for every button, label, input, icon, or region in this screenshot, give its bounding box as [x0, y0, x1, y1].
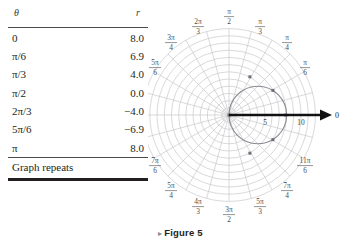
table-row: π/3 4.0 [8, 65, 148, 83]
svg-text:2π: 2π [194, 17, 202, 26]
svg-text:π: π [227, 7, 231, 16]
polar-axis-label-0: 0 [335, 111, 339, 120]
table-bottom-rule [8, 178, 148, 180]
svg-text:4π: 4π [194, 197, 202, 206]
svg-text:3: 3 [196, 27, 200, 36]
svg-text:4: 4 [169, 43, 173, 52]
caption-triangle-icon: ▸ [158, 229, 162, 238]
column-header-r: r [78, 6, 148, 21]
polar-figure: 5 10 0 π 2 2π 3 3π 4 [148, 2, 341, 241]
angle-label-7pi-over-6: 7π 6 [149, 156, 161, 175]
svg-text:2: 2 [227, 17, 231, 26]
svg-text:5π: 5π [151, 58, 159, 67]
table-footer-row: Graph repeats [8, 158, 148, 177]
table-row: 0 8.0 [8, 28, 148, 47]
svg-text:5π: 5π [256, 197, 264, 206]
polar-values-table: θ r 0 8.0 π/6 6.9 π/3 4.0 [8, 6, 148, 181]
cell-r: 8.0 [78, 28, 148, 47]
cell-r: 6.9 [78, 47, 148, 65]
svg-text:4: 4 [169, 191, 173, 200]
svg-text:5π: 5π [167, 181, 175, 190]
svg-text:6: 6 [153, 166, 157, 175]
cell-r: −4.0 [78, 102, 148, 120]
svg-text:4: 4 [285, 191, 289, 200]
polar-plot: 5 10 0 π 2 2π 3 3π 4 [148, 2, 341, 224]
header-rule [8, 21, 148, 28]
svg-text:6: 6 [303, 166, 307, 175]
cell-r: 4.0 [78, 65, 148, 83]
caption-text: Figure 5 [164, 227, 203, 238]
svg-text:3: 3 [196, 207, 200, 216]
cell-theta: π [8, 139, 78, 158]
angle-label-pi-over-4: π 4 [282, 33, 292, 52]
angle-label-5pi-over-4: 5π 4 [165, 181, 177, 200]
cell-r: 8.0 [78, 139, 148, 158]
svg-text:3π: 3π [167, 33, 175, 42]
svg-text:3: 3 [258, 207, 262, 216]
table-row: 5π/6 −6.9 [8, 120, 148, 138]
svg-text:7π: 7π [283, 181, 291, 190]
cell-theta: 0 [8, 28, 78, 47]
table-row: π/6 6.9 [8, 47, 148, 65]
cell-r: −6.9 [78, 120, 148, 138]
angle-label-pi-over-6: π 6 [300, 58, 310, 77]
table-row: π/2 0.0 [8, 84, 148, 102]
svg-text:2: 2 [227, 215, 231, 224]
svg-text:6: 6 [303, 68, 307, 77]
cell-theta: π/2 [8, 84, 78, 102]
cell-theta: π/3 [8, 65, 78, 83]
svg-text:π: π [303, 58, 307, 67]
angle-label-pi-over-3: π 3 [255, 17, 265, 36]
angle-label-pi-over-2: π 2 [224, 7, 234, 26]
angle-label-3pi-over-4: 3π 4 [165, 33, 177, 52]
svg-text:6: 6 [153, 68, 157, 77]
svg-text:3: 3 [258, 27, 262, 36]
column-header-theta: θ [8, 6, 78, 21]
cell-theta: 5π/6 [8, 120, 78, 138]
cell-theta: π/6 [8, 47, 78, 65]
svg-text:3π: 3π [225, 205, 233, 214]
angle-label-2pi-over-3: 2π 3 [192, 17, 204, 36]
cell-r: 0.0 [78, 84, 148, 102]
svg-text:π: π [258, 17, 262, 26]
angle-label-4pi-over-3: 4π 3 [192, 197, 204, 216]
figure-caption: ▸Figure 5 [158, 227, 203, 238]
svg-text:π: π [285, 33, 289, 42]
radial-tick-5: 5 [263, 118, 267, 127]
table-header-row: θ r [8, 6, 148, 21]
table: θ r 0 8.0 π/6 6.9 π/3 4.0 [8, 6, 148, 176]
svg-text:11π: 11π [300, 156, 311, 165]
angle-label-3pi-over-2: 3π 2 [223, 205, 235, 224]
table-row: π 8.0 [8, 139, 148, 158]
angle-label-11pi-over-6: 11π 6 [297, 156, 313, 175]
table-body: 0 8.0 π/6 6.9 π/3 4.0 π/2 0.0 2π/3 −4. [8, 28, 148, 177]
svg-text:7π: 7π [151, 156, 159, 165]
svg-text:4: 4 [285, 43, 289, 52]
graph-repeats-note: Graph repeats [8, 158, 148, 177]
radial-tick-10: 10 [297, 118, 305, 127]
angle-label-5pi-over-3: 5π 3 [254, 197, 266, 216]
angle-label-7pi-over-4: 7π 4 [281, 181, 293, 200]
figure-page: θ r 0 8.0 π/6 6.9 π/3 4.0 [0, 0, 341, 241]
table-row: 2π/3 −4.0 [8, 102, 148, 120]
cell-theta: 2π/3 [8, 102, 78, 120]
